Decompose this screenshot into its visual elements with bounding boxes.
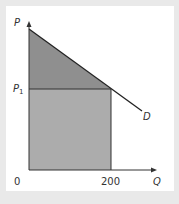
revenue-area [29, 89, 111, 170]
y-axis-arrow-icon [27, 21, 32, 27]
x-axis-label: Q [153, 176, 161, 187]
quantity-200-label: 200 [101, 176, 120, 187]
demand-diagram [0, 0, 179, 204]
demand-label: D [143, 111, 151, 122]
p1-label-sub: 1 [19, 88, 23, 96]
y-axis-label: P [14, 17, 20, 28]
origin-label: 0 [14, 176, 20, 187]
p1-label: P1 [13, 83, 24, 96]
x-axis-arrow-icon [151, 168, 157, 173]
